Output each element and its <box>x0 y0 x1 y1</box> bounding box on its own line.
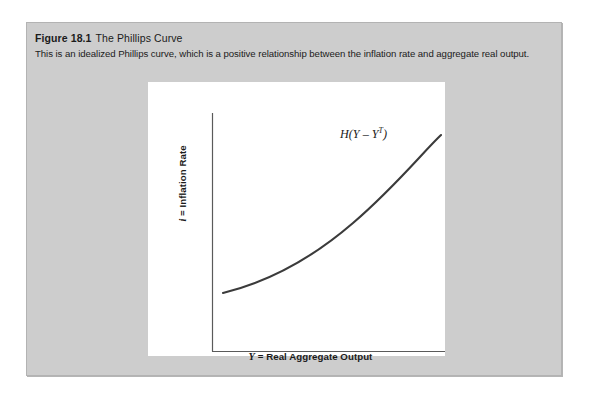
curve-function-label: H(Y – YT) <box>340 127 387 142</box>
plot-card: i = Inflation Rate Y = Real Aggregate Ou… <box>148 82 445 356</box>
figure-description: This is an idealized Phillips curve, whi… <box>35 47 547 61</box>
y-axis-symbol: i <box>177 219 188 222</box>
x-axis-symbol: Y <box>249 351 255 362</box>
phillips-curve-plot <box>148 82 445 356</box>
curve-label-prefix: H(Y – Y <box>340 127 379 141</box>
curve-label-suffix: ) <box>383 127 387 141</box>
figure-name: The Phillips Curve <box>92 32 183 44</box>
figure-title: Figure 18.1The Phillips Curve <box>35 31 547 45</box>
figure-caption-block: Figure 18.1The Phillips Curve This is an… <box>35 31 547 61</box>
y-axis-label: i = Inflation Rate <box>177 145 188 221</box>
y-axis-text: = Inflation Rate <box>177 145 188 216</box>
figure-panel: Figure 18.1The Phillips Curve This is an… <box>26 22 562 376</box>
x-axis-text: = Real Aggregate Output <box>258 351 373 362</box>
x-axis-label: Y = Real Aggregate Output <box>148 351 445 362</box>
phillips-curve-path <box>223 135 441 293</box>
figure-number: Figure 18.1 <box>35 32 92 44</box>
